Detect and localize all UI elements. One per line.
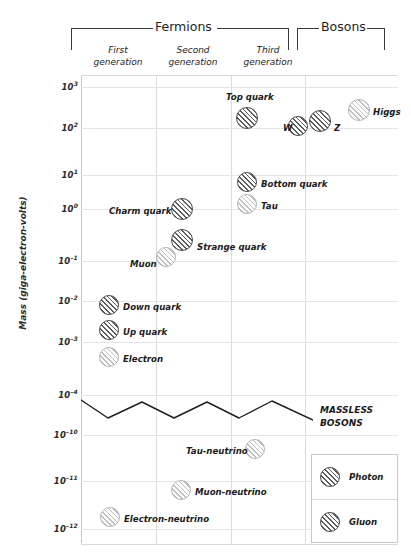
vertical-gridline-2 (305, 76, 306, 544)
particle-marker-icon (99, 347, 119, 367)
particle-marker-icon (309, 110, 331, 132)
particle-label: Top quark (226, 92, 274, 102)
generation-second-line1: Second (176, 45, 209, 55)
massless-bosons-note: MASSLESS BOSONS (320, 404, 373, 429)
particle-marker-icon (100, 507, 120, 527)
legend-box: Photon Gluon (311, 454, 398, 543)
bosons-bracket-bar-left (297, 28, 319, 29)
particle-marker-icon (236, 107, 258, 129)
particle-label: Strange quark (197, 242, 266, 252)
fermions-bracket-bar-left (71, 28, 153, 29)
fermions-bracket-bar-right (217, 28, 289, 29)
particle-marker-icon (99, 320, 119, 340)
particle-marker-icon (237, 172, 257, 192)
y-tick--3: 10–3 (32, 335, 78, 347)
legend-label-photon: Photon (349, 472, 383, 482)
axis-break-zigzag (81, 396, 313, 430)
y-tick--4: 10–4 (32, 388, 78, 400)
particle-marker-icon (156, 247, 176, 267)
particle-label: Z (334, 123, 340, 133)
particle-marker-icon (348, 99, 370, 121)
y-tick--12: 10–12 (32, 522, 78, 534)
generation-third-line1: Third (256, 45, 279, 55)
y-tick-1: 101 (32, 168, 78, 180)
particle-label: Down quark (123, 302, 181, 312)
y-tick--11: 10–11 (32, 474, 78, 486)
horizontal-gridline-8 (81, 435, 398, 436)
fermions-title: Fermions (155, 19, 212, 34)
gluon-marker-icon (320, 512, 340, 532)
y-tick-2: 102 (32, 121, 78, 133)
particle-label: Up quark (123, 327, 167, 337)
particle-label: Tau-neutrino (186, 446, 248, 456)
y-tick--2: 10–2 (32, 294, 78, 306)
legend-item-photon[interactable]: Photon (312, 455, 397, 499)
particle-marker-icon (237, 194, 257, 214)
particle-marker-icon (171, 198, 193, 220)
particle-label: Higgs (373, 107, 401, 117)
generation-first-line2: generation (94, 57, 143, 67)
massless-line-2: BOSONS (320, 418, 363, 428)
generation-label-second: Second generation (150, 44, 236, 68)
y-tick-3: 103 (32, 80, 78, 92)
particle-marker-icon (171, 229, 193, 251)
y-tick--1: 10–1 (32, 254, 78, 266)
particle-label: Bottom quark (261, 179, 328, 189)
legend-label-gluon: Gluon (349, 517, 377, 527)
particle-label: Muon (130, 259, 157, 269)
particle-marker-icon (99, 295, 119, 315)
vertical-gridline-1 (231, 76, 232, 544)
particle-label: W (283, 123, 292, 133)
generation-label-first: First generation (75, 44, 161, 68)
horizontal-gridline-4 (81, 261, 398, 262)
photon-marker-icon (320, 467, 340, 487)
y-axis-ticks: 10310210110010–110–210–310–410–1010–1110… (0, 0, 78, 553)
horizontal-gridline-1 (81, 128, 398, 129)
particle-label: Electron-neutrino (124, 514, 209, 524)
generation-third-line2: generation (244, 57, 293, 67)
particle-marker-icon (245, 439, 265, 459)
y-tick-0: 100 (32, 202, 78, 214)
generation-first-line1: First (108, 45, 128, 55)
generation-second-line2: generation (169, 57, 218, 67)
particle-label: Charm quark (109, 206, 171, 216)
bosons-bracket-bar-right (367, 28, 385, 29)
chart-root: Fermions Bosons First generation Second … (0, 0, 411, 553)
particle-label: Tau (261, 201, 278, 211)
particle-label: Muon-neutrino (195, 487, 267, 497)
horizontal-gridline-0 (81, 87, 398, 88)
legend-item-gluon[interactable]: Gluon (312, 499, 397, 543)
y-axis-title: Mass (giga-electron-volts) (18, 178, 28, 348)
massless-line-1: MASSLESS (320, 405, 373, 415)
bosons-title: Bosons (321, 19, 366, 34)
particle-marker-icon (171, 480, 191, 500)
particle-label: Electron (123, 354, 163, 364)
horizontal-gridline-6 (81, 342, 398, 343)
bosons-bracket-tick-right (384, 28, 385, 50)
generation-label-third: Third generation (225, 44, 311, 68)
y-tick--10: 10–10 (32, 428, 78, 440)
